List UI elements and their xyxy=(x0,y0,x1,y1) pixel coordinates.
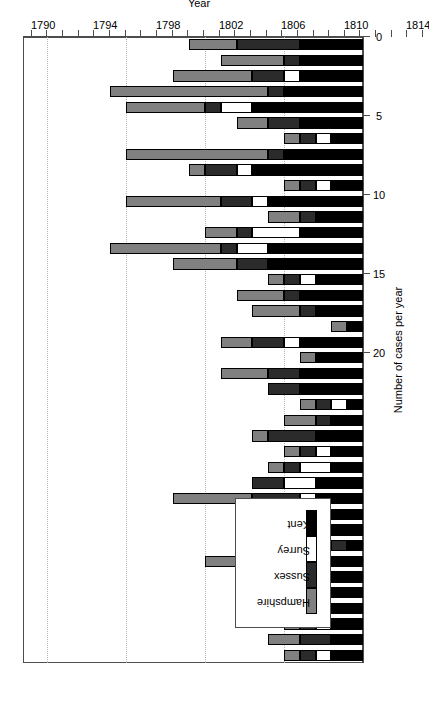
bar-1803[interactable] xyxy=(284,446,363,457)
bar-1824[interactable] xyxy=(237,117,364,128)
bar-segment-surrey xyxy=(316,133,332,144)
bar-1809[interactable] xyxy=(300,352,363,363)
bar-1820[interactable] xyxy=(284,180,363,191)
bar-segment-sussex xyxy=(316,415,332,426)
bar-segment-kent xyxy=(300,290,363,301)
bar-segment-hampshire xyxy=(126,196,221,207)
bar-segment-hampshire xyxy=(268,462,284,473)
bar-segment-hampshire xyxy=(284,133,300,144)
bar-segment-sussex xyxy=(300,180,316,191)
bar-segment-kent xyxy=(331,462,363,473)
year-tick-1804 xyxy=(250,30,251,37)
bar-1790[interactable] xyxy=(284,650,363,661)
bar-segment-sussex xyxy=(252,337,284,348)
bar-segment-hampshire xyxy=(205,227,237,238)
bar-1821[interactable] xyxy=(189,164,363,175)
bar-1829[interactable] xyxy=(189,39,363,50)
year-tick-1805 xyxy=(266,30,267,37)
bar-segment-sussex xyxy=(205,164,237,175)
bar-1805[interactable] xyxy=(284,415,363,426)
bar-segment-kent xyxy=(284,149,363,160)
bar-segment-kent xyxy=(316,430,363,441)
year-tick-label-1814: 1814 xyxy=(406,19,429,33)
bar-1823[interactable] xyxy=(284,133,363,144)
bar-segment-surrey xyxy=(252,227,299,238)
bar-1828[interactable] xyxy=(221,55,363,66)
bar-segment-kent xyxy=(268,196,363,207)
bar-segment-hampshire xyxy=(189,39,236,50)
bar-segment-sussex xyxy=(221,243,237,254)
bar-1826[interactable] xyxy=(110,86,363,97)
bar-1806[interactable] xyxy=(300,399,363,410)
bar-1810[interactable] xyxy=(221,337,363,348)
bar-1817[interactable] xyxy=(205,227,363,238)
bar-segment-kent xyxy=(300,71,363,82)
bar-1815[interactable] xyxy=(173,258,363,269)
bar-segment-hampshire xyxy=(284,180,300,191)
bar-segment-sussex xyxy=(316,399,332,410)
bar-segment-surrey xyxy=(316,650,332,661)
bar-1816[interactable] xyxy=(110,243,363,254)
bar-1812[interactable] xyxy=(252,305,363,316)
bar-segment-hampshire xyxy=(284,446,300,457)
bar-segment-kent xyxy=(300,227,363,238)
bar-1791[interactable] xyxy=(268,634,363,645)
bar-1801[interactable] xyxy=(252,477,363,488)
bar-segment-sussex xyxy=(268,86,284,97)
bar-1808[interactable] xyxy=(221,368,363,379)
value-axis: 05101520 xyxy=(363,37,365,663)
bar-segment-hampshire xyxy=(300,352,316,363)
bar-1818[interactable] xyxy=(268,211,363,222)
bar-segment-sussex xyxy=(300,634,332,645)
legend-label-hampshire: Hampshire xyxy=(257,597,310,609)
bar-segment-kent xyxy=(300,384,363,395)
bar-segment-hampshire xyxy=(284,650,300,661)
bar-segment-hampshire xyxy=(331,321,347,332)
bar-1819[interactable] xyxy=(126,196,363,207)
bar-segment-surrey xyxy=(300,274,316,285)
bar-segment-surrey xyxy=(237,164,253,175)
legend-label-kent: Kent xyxy=(287,519,310,531)
bar-1814[interactable] xyxy=(268,274,363,285)
bar-segment-surrey xyxy=(252,196,268,207)
year-tick-label-1790: 1790 xyxy=(31,19,55,33)
year-tick-label-1806: 1806 xyxy=(281,19,305,33)
category-axis: 1790179417981802180618101814181818221826 xyxy=(23,35,363,37)
bar-segment-sussex xyxy=(252,71,284,82)
bar-1813[interactable] xyxy=(237,290,364,301)
bar-1825[interactable] xyxy=(126,102,363,113)
bar-segment-hampshire xyxy=(300,399,316,410)
bar-segment-sussex xyxy=(237,227,253,238)
bar-segment-kent xyxy=(316,352,363,363)
bar-segment-kent xyxy=(268,243,363,254)
bar-1811[interactable] xyxy=(331,321,363,332)
year-tick-label-1798: 1798 xyxy=(156,19,180,33)
year-tick-label-1810: 1810 xyxy=(344,19,368,33)
bar-1822[interactable] xyxy=(126,149,363,160)
bar-segment-sussex xyxy=(268,149,284,160)
bar-segment-hampshire xyxy=(268,274,284,285)
bar-segment-hampshire xyxy=(252,430,268,441)
category-axis-title: Year xyxy=(188,0,210,9)
bar-segment-sussex xyxy=(205,102,221,113)
bar-segment-hampshire xyxy=(268,211,300,222)
bar-segment-surrey xyxy=(284,71,300,82)
bar-segment-sussex xyxy=(300,446,316,457)
bar-segment-sussex xyxy=(268,368,300,379)
bar-segment-surrey xyxy=(284,477,316,488)
year-tick-1791 xyxy=(46,30,47,37)
year-tick-label-1794: 1794 xyxy=(93,19,117,33)
chart-figure: 05101520 Number of cases per year 179017… xyxy=(0,0,429,713)
bar-segment-hampshire xyxy=(173,71,252,82)
bar-1807[interactable] xyxy=(268,384,363,395)
bar-1827[interactable] xyxy=(173,71,363,82)
bar-segment-sussex xyxy=(300,305,316,316)
legend-label-sussex: Sussex xyxy=(274,571,310,583)
bar-segment-sussex xyxy=(221,196,253,207)
bar-1804[interactable] xyxy=(252,430,363,441)
bar-segment-kent xyxy=(331,133,363,144)
bar-segment-sussex xyxy=(268,384,300,395)
bar-segment-kent xyxy=(300,55,363,66)
bar-1802[interactable] xyxy=(268,462,363,473)
bar-segment-sussex xyxy=(300,211,316,222)
